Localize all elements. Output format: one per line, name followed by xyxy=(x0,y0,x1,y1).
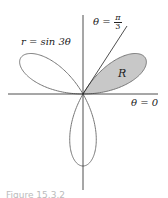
ray-label-prefix: θ = xyxy=(93,16,111,27)
figure-caption: Figure 15.3.2 xyxy=(6,190,65,198)
frac-numerator: π xyxy=(115,14,120,22)
shaded-region-r xyxy=(83,54,146,95)
region-label: R xyxy=(118,67,126,80)
curve-label: r = sin 3θ xyxy=(21,36,71,47)
ray-label-fraction: π 3 xyxy=(114,14,122,31)
polar-axis-label: θ = 0 xyxy=(131,97,158,108)
frac-denominator: 3 xyxy=(115,23,120,31)
ray-label: θ = π 3 xyxy=(93,14,122,31)
